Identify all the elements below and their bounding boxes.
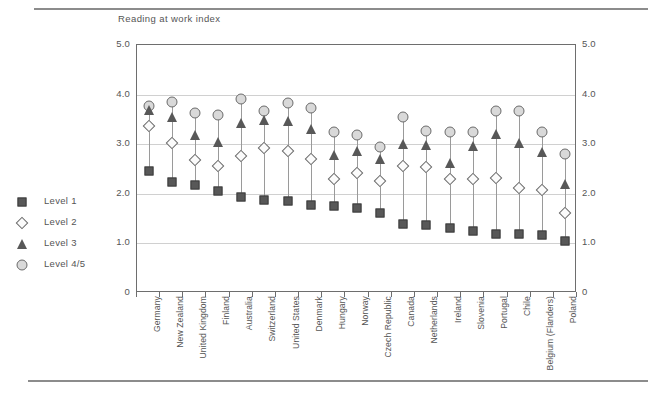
data-point-level-3 xyxy=(352,146,362,156)
x-axis-label: Denmark xyxy=(314,296,324,332)
legend-label: Level 1 xyxy=(44,195,77,206)
y-axis-tick-label-left: 5.0 xyxy=(100,38,130,49)
data-stem xyxy=(519,111,520,234)
data-point-level-2 xyxy=(189,153,202,166)
data-point-level-1 xyxy=(561,237,570,246)
data-point-level-3 xyxy=(213,137,223,147)
data-point-level-1 xyxy=(167,177,176,186)
x-axis-label: Slovenia xyxy=(476,296,486,330)
data-point-level-1 xyxy=(376,208,385,217)
data-point-level-2 xyxy=(142,119,155,132)
data-point-level-3 xyxy=(375,154,385,164)
data-point-level-4-5 xyxy=(514,106,525,117)
gridline xyxy=(137,194,575,195)
data-point-level-4-5 xyxy=(305,102,316,113)
data-point-level-3 xyxy=(514,138,524,148)
y-axis-tick-label-right: 2.0 xyxy=(582,187,612,198)
x-axis-label: United States xyxy=(291,296,301,349)
legend-marker-icon xyxy=(17,239,27,249)
data-point-level-2 xyxy=(420,160,433,173)
y-axis-tick-label-right: 1.0 xyxy=(582,236,612,247)
x-axis-label: Czech Republic xyxy=(383,296,393,358)
data-point-level-1 xyxy=(237,193,246,202)
legend-item-level-1[interactable]: Level 1 xyxy=(14,192,124,213)
data-point-level-1 xyxy=(353,204,362,213)
data-point-level-4-5 xyxy=(537,126,548,137)
data-point-level-3 xyxy=(167,112,177,122)
data-point-level-1 xyxy=(283,197,292,206)
x-axis-label: Portugal xyxy=(499,296,509,329)
data-point-level-4-5 xyxy=(166,97,177,108)
data-point-level-4-5 xyxy=(236,93,247,104)
data-point-level-2 xyxy=(513,182,526,195)
data-point-level-3 xyxy=(329,150,339,160)
data-point-level-1 xyxy=(445,223,454,232)
data-point-level-4-5 xyxy=(189,108,200,119)
y-axis-tick-label-left: 3.0 xyxy=(100,137,130,148)
x-axis-tick xyxy=(136,292,137,297)
data-point-level-3 xyxy=(190,130,200,140)
data-point-level-4-5 xyxy=(352,129,363,140)
legend-label: Level 3 xyxy=(44,237,77,248)
data-point-level-4-5 xyxy=(560,149,571,160)
data-point-level-3 xyxy=(283,116,293,126)
data-point-level-3 xyxy=(421,140,431,150)
data-point-level-2 xyxy=(559,206,572,219)
x-axis-label: Norway xyxy=(360,296,370,326)
legend-item-level-4-5[interactable]: Level 4/5 xyxy=(14,255,124,276)
data-point-level-2 xyxy=(443,173,456,186)
gridline xyxy=(137,95,575,96)
data-point-level-4-5 xyxy=(490,106,501,117)
data-point-level-4-5 xyxy=(328,126,339,137)
data-point-level-1 xyxy=(399,219,408,228)
data-stem xyxy=(334,132,335,206)
data-point-level-3 xyxy=(445,158,455,168)
data-point-level-4-5 xyxy=(444,127,455,138)
data-point-level-1 xyxy=(260,196,269,205)
data-stem xyxy=(218,115,219,191)
y-axis-tick-label-right: 0 xyxy=(582,286,612,297)
data-point-level-3 xyxy=(398,139,408,149)
data-point-level-3 xyxy=(537,147,547,157)
y-axis-tick-label-right: 5.0 xyxy=(582,38,612,49)
data-point-level-1 xyxy=(422,220,431,229)
x-axis-label: Belgium (Flanders) xyxy=(545,296,555,370)
data-point-level-2 xyxy=(304,152,317,165)
legend-label: Level 4/5 xyxy=(44,258,85,269)
data-point-level-2 xyxy=(397,159,410,172)
data-stem xyxy=(241,99,242,198)
legend-item-level-2[interactable]: Level 2 xyxy=(14,213,124,234)
data-point-level-3 xyxy=(259,115,269,125)
plot-area xyxy=(136,44,576,292)
x-axis-label: Ireland xyxy=(453,296,463,323)
x-axis-label: New Zealand xyxy=(175,296,185,348)
data-stem xyxy=(565,154,566,241)
y-axis-tick-label-left: 0 xyxy=(100,286,130,297)
data-point-level-2 xyxy=(327,173,340,186)
bottom-divider-rule xyxy=(28,380,648,382)
x-axis-label: United Kingdom xyxy=(198,296,208,359)
data-point-level-4-5 xyxy=(398,111,409,122)
data-point-level-3 xyxy=(306,124,316,134)
data-point-level-4-5 xyxy=(213,110,224,121)
x-axis-label: Chile xyxy=(522,296,532,316)
data-point-level-4-5 xyxy=(467,126,478,137)
data-point-level-2 xyxy=(281,144,294,157)
chart-title: Reading at work index xyxy=(118,13,220,24)
data-point-level-2 xyxy=(212,160,225,173)
data-point-level-1 xyxy=(144,166,153,175)
legend-item-level-3[interactable]: Level 3 xyxy=(14,234,124,255)
legend-marker-icon xyxy=(17,260,28,271)
data-point-level-1 xyxy=(468,227,477,236)
top-divider-rule xyxy=(34,8,648,10)
gridline xyxy=(137,243,575,244)
data-point-level-4-5 xyxy=(421,125,432,136)
y-axis-tick-label-right: 4.0 xyxy=(582,88,612,99)
x-axis-label: Canada xyxy=(406,296,416,327)
data-point-level-4-5 xyxy=(375,141,386,152)
x-axis-label: Hungary xyxy=(337,296,347,329)
data-point-level-3 xyxy=(144,105,154,115)
data-point-level-2 xyxy=(351,167,364,180)
data-point-level-2 xyxy=(165,136,178,149)
data-point-level-1 xyxy=(306,200,315,209)
